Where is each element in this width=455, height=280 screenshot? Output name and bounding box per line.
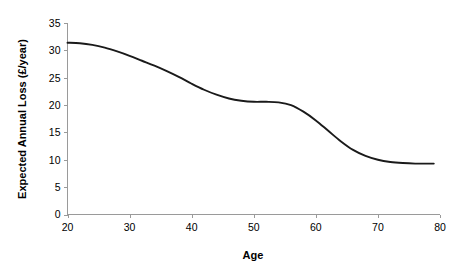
x-tick-label: 80 (434, 221, 446, 233)
x-tick-label: 60 (310, 221, 322, 233)
y-tick-label: 30 (49, 44, 61, 56)
x-axis-ticks: 20304050607080 (62, 215, 446, 233)
x-tick-label: 50 (248, 221, 260, 233)
y-tick-label: 15 (49, 126, 61, 138)
y-tick-label: 0 (55, 208, 61, 220)
x-axis-title: Age (243, 249, 264, 261)
y-tick-label: 5 (55, 181, 61, 193)
y-tick-label: 25 (49, 72, 61, 84)
x-tick-label: 20 (62, 221, 74, 233)
x-tick-label: 70 (372, 221, 384, 233)
y-tick-label: 35 (49, 17, 61, 29)
x-tick-label: 40 (186, 221, 198, 233)
y-tick-label: 20 (49, 99, 61, 111)
y-axis-ticks: 05101520253035 (49, 17, 68, 221)
y-tick-label: 10 (49, 154, 61, 166)
chart-container: 05101520253035 20304050607080 Expected A… (0, 0, 455, 280)
line-chart: 05101520253035 20304050607080 Expected A… (0, 0, 455, 280)
x-tick-label: 30 (124, 221, 136, 233)
y-axis-title: Expected Annual Loss (£/year) (16, 39, 28, 199)
data-series-line (68, 43, 434, 164)
